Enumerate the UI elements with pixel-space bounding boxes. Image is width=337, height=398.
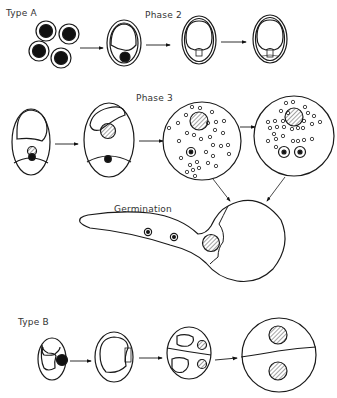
diagram-canvas: Type A Phase 2 Phase 3 Germination Type … xyxy=(0,0,337,398)
germination-cell xyxy=(80,200,285,281)
diagram-drawing xyxy=(0,0,337,398)
type-a-spores xyxy=(29,21,79,68)
